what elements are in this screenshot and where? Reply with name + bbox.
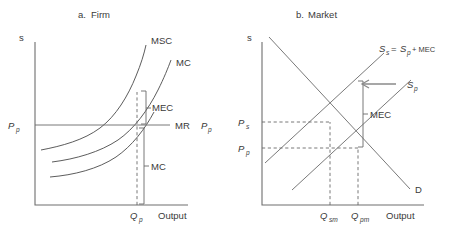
x-tick-label-qp-sub: p: [138, 216, 143, 224]
panel-b-title: Market: [308, 9, 337, 20]
panel-b-y-axis-label: s: [247, 32, 252, 43]
label-supply-private-main: S: [400, 43, 407, 54]
label-msc: MSC: [151, 35, 172, 46]
panel-b-title-prefix: b.: [296, 9, 304, 20]
label-supply-social-plus-mec: + MEC: [412, 45, 436, 54]
x-tick-label-qsm: Q: [320, 210, 328, 221]
y-tick-label-pp: P: [8, 120, 15, 131]
label-supply-private-sub: p: [406, 49, 411, 57]
panel-firm: a. Firm s Output MEC MC MSC MC MR P p: [0, 0, 229, 243]
curve-supply-social: [265, 53, 384, 163]
panel-b-x-axis-label: Output: [386, 210, 415, 221]
y-tick-label-ps-sub: s: [246, 123, 250, 130]
label-supply-private: S: [407, 79, 414, 90]
label-supply-private-label-sub: p: [413, 85, 418, 93]
panel-a-axes: [35, 42, 188, 205]
bracket-mec: [141, 91, 146, 124]
y-tick-label-pp-market-sub: p: [245, 149, 250, 157]
y-tick-label-pp-market: P: [238, 143, 245, 154]
x-tick-label-qsm-sub: sm: [329, 216, 338, 223]
x-tick-label-qpm-sub: pm: [359, 216, 370, 224]
y-tick-label-pp-sub: p: [15, 126, 20, 134]
label-mec: MEC: [152, 102, 173, 113]
economics-externality-figure: a. Firm s Output MEC MC MSC MC MR P p: [0, 0, 458, 243]
label-supply-social-equals: =: [391, 43, 397, 54]
panel-a-x-axis-label: Output: [158, 210, 187, 221]
label-mr: MR: [175, 120, 190, 131]
curve-msc: [41, 45, 146, 150]
panel-a-title-prefix: a.: [78, 9, 86, 20]
panel-a-y-axis-label: s: [19, 32, 24, 43]
bracket-mc: [139, 128, 144, 204]
label-mc-upper: MC: [176, 57, 191, 68]
curve-supply-private: [292, 80, 411, 190]
label-mr-price: P: [201, 120, 208, 131]
panel-b-axes: [262, 42, 424, 205]
x-tick-label-qpm: Q: [351, 210, 359, 221]
label-supply-social-main: S: [379, 43, 386, 54]
panel-a-title: Firm: [91, 9, 110, 20]
panel-market: b. Market s Output MEC S s = S p +: [229, 0, 458, 243]
label-supply-social-sub: s: [386, 49, 390, 56]
label-demand: D: [415, 184, 422, 195]
y-tick-label-ps: P: [238, 117, 245, 128]
label-mec-market: MEC: [370, 109, 391, 120]
label-mc-lower: MC: [151, 161, 166, 172]
label-mr-price-sub: p: [207, 126, 212, 134]
x-tick-label-qp: Q: [130, 210, 138, 221]
